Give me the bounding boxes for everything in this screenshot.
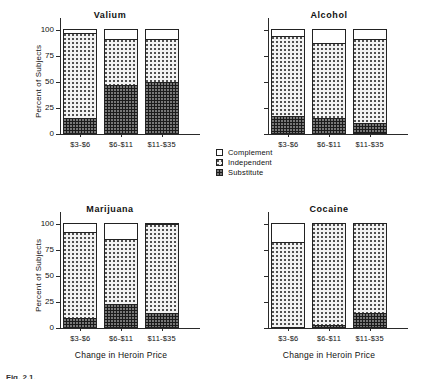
plot-area: $3-$6$6-$11$11-$35 [268,224,390,328]
bar-segment-independent [104,239,138,306]
bar-segment-substitute [271,116,305,134]
bar-segment-independent [145,224,179,314]
y-axis-tick-label: 0 [50,130,54,138]
x-axis-tick [329,328,330,331]
bar-segment-substitute [63,118,97,134]
bar-segment-independent [312,43,346,120]
y-axis-line [60,18,61,134]
stacked-bar [353,30,387,134]
x-axis-label: Change in Heroin Price [268,350,390,360]
y-axis-tick-label: 25 [45,298,54,306]
chart-title: Marijuana [8,204,212,214]
x-axis-tick [370,328,371,331]
x-axis-tick [370,134,371,137]
y-axis-tick [264,108,268,109]
y-axis-tick [56,82,60,83]
legend: ComplementIndependentSubstitute [216,148,273,178]
stacked-bar [104,224,138,328]
stacked-bar [271,224,305,328]
x-axis-tick [162,134,163,137]
legend-item-substitute[interactable]: Substitute [216,168,273,177]
bar-segment-independent [145,39,179,83]
stacked-bar [145,224,179,328]
bar-segment-complement [271,223,305,243]
bar-segment-substitute [145,313,179,328]
y-axis-tick [56,276,60,277]
y-axis-tick [264,30,268,31]
y-axis-tick [264,134,268,135]
figure-caption: Fig. 2.1. [6,373,36,379]
stacked-bar [63,30,97,134]
x-axis-tick [288,328,289,331]
chart-title: Valium [8,10,212,20]
x-axis-label: Change in Heroin Price [60,350,182,360]
bar-segment-complement [145,29,179,40]
bar-segment-complement [63,223,97,233]
bar-segment-independent [104,39,138,86]
chart-title: Cocaine [238,204,420,214]
x-axis-tick [80,134,81,137]
y-axis-label: Percent of Subjects [34,30,43,134]
y-axis-tick-label: 50 [45,78,54,86]
x-axis-tick [288,134,289,137]
bar-segment-complement [353,29,387,40]
bar-segment-complement [312,29,346,44]
y-axis-tick-label: 75 [45,52,54,60]
x-axis-category-label: $11-$35 [132,334,192,343]
y-axis-tick [56,56,60,57]
y-axis-tick-label: 100 [41,26,54,34]
stacked-bar [271,30,305,134]
y-axis-tick [56,108,60,109]
y-axis-tick [56,134,60,135]
y-axis-tick [264,276,268,277]
legend-label: Substitute [228,168,263,177]
y-axis-tick-label: 100 [41,220,54,228]
bar-segment-independent [271,36,305,117]
plot-area: 0255075100$3-$6$6-$11$11-$35 [60,224,182,328]
bar-segment-complement [271,29,305,37]
x-axis-tick [121,328,122,331]
x-axis-tick [121,134,122,137]
y-axis-tick [56,30,60,31]
x-axis-tick [162,328,163,331]
bar-segment-independent [271,242,305,328]
stacked-bar [312,224,346,328]
y-axis-line [268,212,269,328]
bar-segment-independent [353,223,387,314]
y-axis-tick [264,224,268,225]
x-axis-category-label: $11-$35 [340,140,400,149]
x-axis-category-label: $11-$35 [132,140,192,149]
y-axis-tick [56,302,60,303]
x-axis-category-label: $11-$35 [340,334,400,343]
bar-segment-substitute [353,123,387,134]
bar-segment-substitute [104,85,138,134]
y-axis-line [60,212,61,328]
legend-swatch-complement-icon [216,149,223,156]
bar-segment-complement [104,29,138,40]
bar-segment-substitute [312,118,346,134]
stacked-bar [145,30,179,134]
legend-item-independent[interactable]: Independent [216,158,273,167]
stacked-bar [353,224,387,328]
bar-segment-independent [63,33,97,119]
stacked-bar [104,30,138,134]
chart-title: Alcohol [238,10,420,20]
bar-segment-independent [63,232,97,318]
y-axis-tick-label: 25 [45,104,54,112]
x-axis-tick [329,134,330,137]
bar-segment-substitute [104,304,138,328]
y-axis-line [268,18,269,134]
plot-area: $3-$6$6-$11$11-$35 [268,30,390,134]
stacked-bar [63,224,97,328]
bar-segment-substitute [145,82,179,134]
y-axis-tick-label: 50 [45,272,54,280]
y-axis-tick [264,328,268,329]
chart-panel-cocaine: Cocaine$3-$6$6-$11$11-$35Change in Heroi… [238,198,420,374]
legend-swatch-independent-icon [216,159,223,166]
bar-segment-complement [145,223,179,225]
legend-label: Complement [228,148,273,157]
y-axis-tick [56,328,60,329]
stacked-bar [312,30,346,134]
y-axis-tick [264,56,268,57]
legend-item-complement[interactable]: Complement [216,148,273,157]
